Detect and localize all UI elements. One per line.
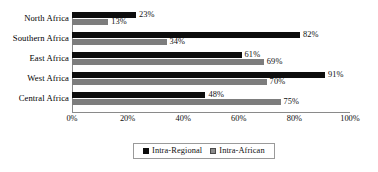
tick-label: 100% bbox=[340, 114, 360, 124]
value-axis-ticks: 0%20%40%60%80%100% bbox=[72, 114, 350, 126]
legend-item-intra-african[interactable]: Intra-African bbox=[210, 146, 264, 156]
tick-label: 0% bbox=[66, 114, 77, 124]
bar-value-label: 82% bbox=[303, 31, 319, 39]
bar bbox=[72, 99, 281, 105]
bar bbox=[72, 92, 205, 98]
bar-value-label: 23% bbox=[139, 11, 155, 19]
bar-value-label: 34% bbox=[170, 38, 186, 46]
bar-value-label: 75% bbox=[284, 98, 300, 106]
tick-label: 20% bbox=[120, 114, 135, 124]
bar-value-label: 48% bbox=[208, 91, 224, 99]
chart-legend: Intra-Regional Intra-African bbox=[133, 143, 275, 159]
legend-swatch-icon bbox=[210, 148, 216, 154]
bar bbox=[72, 52, 242, 58]
bar-value-label: 70% bbox=[270, 78, 286, 86]
category-label: East Africa bbox=[0, 53, 69, 63]
legend-item-intra-regional[interactable]: Intra-Regional bbox=[143, 146, 202, 156]
bar bbox=[72, 39, 167, 45]
category-label: North Africa bbox=[0, 13, 69, 23]
bar-value-label: 13% bbox=[111, 18, 127, 26]
bar-value-label: 91% bbox=[328, 71, 344, 79]
category-axis-line bbox=[72, 112, 350, 113]
bar bbox=[72, 19, 108, 25]
bar bbox=[72, 59, 264, 65]
bar bbox=[72, 72, 325, 78]
bar bbox=[72, 79, 267, 85]
tick-label: 80% bbox=[287, 114, 302, 124]
bar-value-label: 61% bbox=[245, 51, 261, 59]
category-label: Southern Africa bbox=[0, 33, 69, 43]
category-label: Central Africa bbox=[0, 93, 69, 103]
legend-swatch-icon bbox=[143, 148, 149, 154]
legend-label: Intra-Regional bbox=[152, 146, 202, 156]
category-label: West Africa bbox=[0, 73, 69, 83]
tick-label: 40% bbox=[176, 114, 191, 124]
category-axis-labels: North Africa Southern Africa East Africa… bbox=[0, 12, 69, 112]
tick-label: 60% bbox=[231, 114, 246, 124]
cut-off-text-bleed bbox=[0, 0, 378, 7]
legend-label: Intra-African bbox=[219, 146, 264, 156]
plot-area: 23%13% 82%34% 61%69% 91%70% 48%75% bbox=[72, 12, 350, 112]
bar-chart: North Africa Southern Africa East Africa… bbox=[0, 0, 378, 172]
bar bbox=[72, 32, 300, 38]
bar-value-label: 69% bbox=[267, 58, 283, 66]
